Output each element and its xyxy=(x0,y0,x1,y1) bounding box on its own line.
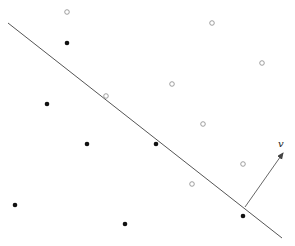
separator-diagram: v xyxy=(0,0,295,246)
filled-circle-point xyxy=(13,203,18,208)
positive-class-points xyxy=(65,10,265,187)
filled-circle-point xyxy=(123,222,128,227)
open-circle-point xyxy=(65,10,70,15)
open-circle-point xyxy=(104,94,109,99)
normal-vector-arrow xyxy=(245,153,283,207)
negative-class-points xyxy=(13,41,246,227)
open-circle-point xyxy=(241,162,246,167)
open-circle-point xyxy=(170,82,175,87)
filled-circle-point xyxy=(154,142,159,147)
open-circle-point xyxy=(190,182,195,187)
filled-circle-point xyxy=(241,214,246,219)
filled-circle-point xyxy=(85,142,90,147)
separating-hyperplane xyxy=(8,23,282,238)
open-circle-point xyxy=(210,21,215,26)
open-circle-point xyxy=(260,61,265,66)
filled-circle-point xyxy=(65,41,70,46)
open-circle-point xyxy=(201,122,206,127)
filled-circle-point xyxy=(45,102,50,107)
normal-vector-label: v xyxy=(278,138,284,149)
